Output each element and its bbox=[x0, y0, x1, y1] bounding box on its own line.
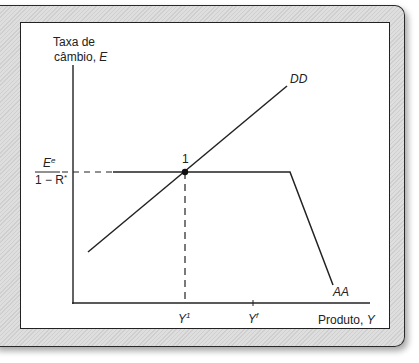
y-axis-label-line2: câmbio, E bbox=[54, 50, 108, 64]
x-axis-label: Produto, Y bbox=[318, 313, 376, 327]
chart-svg: Taxa de câmbio, E Ee 1 − R* DD AA 1 Y1 Y… bbox=[0, 0, 419, 363]
aa-curve bbox=[113, 172, 333, 285]
y-tick-denominator: 1 − R* bbox=[35, 173, 67, 187]
point-label: 1 bbox=[182, 152, 189, 166]
dd-label: DD bbox=[290, 72, 308, 86]
yf-label: Yf bbox=[248, 311, 259, 326]
y-tick-numerator: Ee bbox=[43, 156, 56, 170]
equilibrium-point bbox=[182, 169, 188, 175]
y1-label: Y1 bbox=[178, 311, 190, 326]
y-axis-label-line1: Taxa de bbox=[53, 35, 95, 49]
dd-curve bbox=[88, 86, 287, 252]
aa-label: AA bbox=[332, 285, 349, 299]
